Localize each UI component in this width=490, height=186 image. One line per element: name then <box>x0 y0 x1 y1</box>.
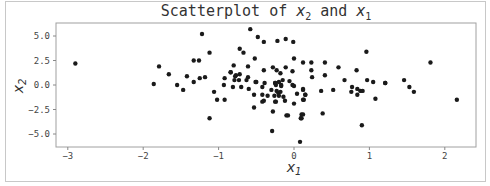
data-point <box>260 93 264 97</box>
data-point <box>292 56 296 60</box>
data-point <box>412 90 416 94</box>
scatter-plot: −3−2−1012 5.02.50.0−2.5−5.0 x1 x2 <box>0 0 490 186</box>
data-point <box>200 32 204 36</box>
data-point <box>181 88 185 92</box>
y-tick-label: −2.5 <box>28 105 50 115</box>
data-point <box>167 72 171 76</box>
data-point <box>292 101 296 105</box>
data-point <box>299 116 303 120</box>
y-axis-label: x2 <box>10 79 28 95</box>
data-point <box>309 68 313 72</box>
x-tick-label: −3 <box>62 151 73 161</box>
x-axis-label: x1 <box>286 159 302 177</box>
data-point <box>207 50 211 54</box>
data-point <box>222 98 226 102</box>
data-point <box>355 93 359 97</box>
data-points <box>73 27 459 144</box>
data-point <box>350 85 354 89</box>
data-point <box>360 89 364 93</box>
data-point <box>298 140 302 144</box>
data-point <box>365 78 369 82</box>
data-point <box>286 113 290 117</box>
data-point <box>292 84 296 88</box>
data-point <box>279 84 283 88</box>
data-point <box>301 98 305 102</box>
data-point <box>269 88 273 92</box>
data-point <box>252 105 256 109</box>
data-point <box>284 37 288 41</box>
data-point <box>274 68 278 72</box>
y-tick-label: 2.5 <box>34 56 50 66</box>
data-point <box>277 94 281 98</box>
data-point <box>244 78 248 82</box>
data-point <box>231 63 235 67</box>
data-point <box>331 88 335 92</box>
data-point <box>262 40 266 44</box>
data-point <box>336 65 340 69</box>
data-point <box>185 74 189 78</box>
data-point <box>192 80 196 84</box>
data-point <box>262 81 266 85</box>
data-point <box>342 78 346 82</box>
data-point <box>278 90 282 94</box>
data-point <box>274 89 278 93</box>
y-axis: 5.02.50.0−2.5−5.0 <box>28 31 56 139</box>
data-point <box>283 98 287 102</box>
x-axis: −3−2−1012 <box>62 147 447 161</box>
data-point <box>197 58 201 62</box>
data-point <box>265 94 269 98</box>
data-point <box>278 71 282 75</box>
data-point <box>253 80 257 84</box>
data-point <box>272 94 276 98</box>
data-point <box>152 82 156 86</box>
data-point <box>271 109 275 113</box>
data-point <box>212 90 216 94</box>
data-point <box>301 60 305 64</box>
data-point <box>402 78 406 82</box>
data-point <box>231 85 235 89</box>
data-point <box>407 85 411 89</box>
data-point <box>310 75 314 79</box>
data-point <box>295 92 299 96</box>
data-point <box>270 129 274 133</box>
data-point <box>247 87 251 91</box>
data-point <box>239 85 243 89</box>
data-point <box>354 68 358 72</box>
y-tick-label: −5.0 <box>28 129 50 139</box>
data-point <box>73 61 77 65</box>
data-point <box>222 76 226 80</box>
y-tick-label: 5.0 <box>34 31 50 41</box>
data-point <box>383 81 387 85</box>
data-point <box>262 68 266 72</box>
data-point <box>237 78 241 82</box>
data-point <box>280 78 284 82</box>
data-point <box>233 74 237 78</box>
data-point <box>275 39 279 43</box>
data-point <box>215 98 219 102</box>
data-point <box>246 64 250 68</box>
data-point <box>428 60 432 64</box>
x-tick-label: −2 <box>138 151 149 161</box>
data-point <box>271 65 275 69</box>
y-tick-label: 0.0 <box>34 80 50 90</box>
data-point <box>274 99 278 103</box>
data-point <box>262 98 266 102</box>
data-point <box>349 90 353 94</box>
data-point <box>252 93 256 97</box>
data-point <box>203 75 207 79</box>
data-point <box>364 49 368 53</box>
data-point <box>320 111 324 115</box>
data-point <box>371 80 375 84</box>
data-point <box>319 89 323 93</box>
x-tick-label: −1 <box>213 151 224 161</box>
data-point <box>309 60 313 64</box>
data-point <box>360 123 364 127</box>
data-point <box>157 64 161 68</box>
data-point <box>281 95 285 99</box>
data-point <box>228 70 232 74</box>
data-point <box>232 78 236 82</box>
data-point <box>207 116 211 120</box>
data-point <box>256 35 260 39</box>
data-point <box>238 47 242 51</box>
data-point <box>260 85 264 89</box>
